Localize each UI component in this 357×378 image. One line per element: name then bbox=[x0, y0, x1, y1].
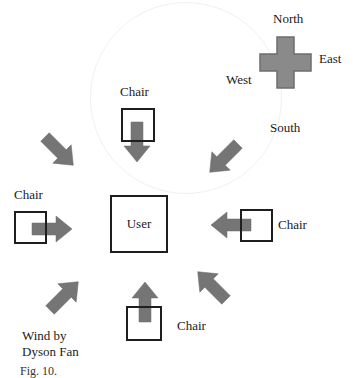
user-label: User bbox=[127, 216, 152, 232]
figure-caption: Fig. 10. bbox=[20, 364, 57, 378]
compass-north-label: North bbox=[273, 11, 303, 26]
user-box: User bbox=[110, 195, 168, 253]
wind-arrow-northwest-icon bbox=[189, 263, 236, 310]
chair-bottom-label: Chair bbox=[177, 318, 206, 333]
compass-east-label: East bbox=[319, 51, 341, 66]
chair-bottom-box bbox=[126, 306, 162, 341]
wind-arrow-northeast-icon bbox=[41, 273, 88, 320]
wind-label-line1: Wind by bbox=[22, 328, 67, 343]
chair-top-label: Chair bbox=[120, 84, 149, 99]
wind-arrow-southwest-icon bbox=[201, 135, 248, 182]
chair-right-box bbox=[240, 209, 273, 242]
wind-label-line2: Dyson Fan bbox=[22, 344, 79, 359]
compass-west-label: West bbox=[226, 72, 252, 87]
chair-top-box bbox=[121, 108, 155, 142]
compass-cross-icon bbox=[260, 37, 311, 88]
chair-left-label: Chair bbox=[14, 187, 43, 202]
chair-left-box bbox=[14, 211, 47, 244]
compass-south-label: South bbox=[270, 120, 300, 135]
wind-arrow-southeast-icon bbox=[36, 128, 83, 175]
chair-right-label: Chair bbox=[278, 217, 307, 232]
